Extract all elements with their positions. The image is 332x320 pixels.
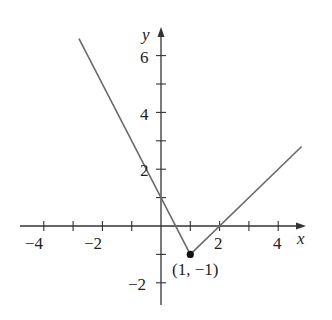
vertex-label: (1, −1): [172, 260, 218, 279]
coordinate-plane: x y −4 −2 2 4 6 4 2 −2 (1, −1): [0, 0, 332, 320]
y-axis-arrow-icon: [158, 27, 165, 37]
x-tick-label-4: 4: [273, 234, 282, 253]
x-tick-label-neg2: −2: [84, 234, 102, 253]
x-tick-label-2: 2: [214, 234, 223, 253]
x-tick-label-neg4: −4: [25, 234, 44, 253]
graph-figure: x y −4 −2 2 4 6 4 2 −2 (1, −1): [0, 0, 332, 320]
y-axis-label: y: [140, 25, 150, 44]
vertex-point: [187, 251, 194, 258]
x-axis-label: x: [296, 229, 305, 248]
y-tick-label-neg2: −2: [128, 275, 146, 294]
y-tick-label-4: 4: [140, 105, 149, 124]
y-tick-label-6: 6: [140, 48, 149, 67]
y-tick-label-2: 2: [140, 161, 149, 180]
